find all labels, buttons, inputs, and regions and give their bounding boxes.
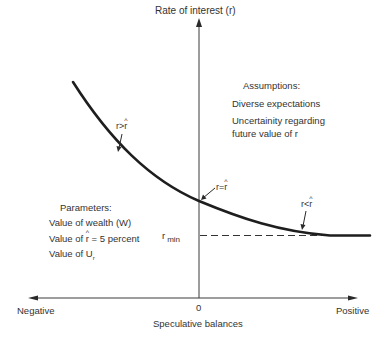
r-hat-var: r (124, 122, 127, 131)
r-var: r (162, 230, 165, 241)
parameter-rhat: Value of r = 5 percent (49, 234, 139, 244)
parameters-title: Parameters: (60, 203, 112, 213)
x-negative-label: Negative (17, 306, 55, 316)
y-axis-arrow-icon (196, 18, 202, 27)
text: = 5 percent (89, 233, 139, 244)
r-hat-var: r (224, 183, 227, 192)
pointer-r-greater-arrow-icon (117, 146, 122, 152)
parameter-wealth: Value of wealth (W) (49, 218, 131, 228)
diagram-canvas (0, 0, 388, 342)
x-positive-label: Positive (336, 306, 369, 316)
speculative-demand-curve (73, 82, 370, 236)
text: Value of (49, 233, 86, 244)
x-axis-label: Speculative balances (153, 319, 243, 329)
pointer-r-equal (203, 188, 215, 198)
label-r-equal-rhat: r=r (216, 183, 227, 192)
label-r-greater-than-rhat: r>r (116, 122, 127, 131)
assumptions-title: Assumptions: (243, 81, 300, 91)
r-min-label: rmin (162, 231, 180, 241)
assumption-line-3: future value of r (232, 129, 298, 139)
r-hat-var: r (86, 234, 89, 244)
subscript: r (93, 255, 95, 261)
parameter-ur: Value of Ur (49, 249, 95, 261)
label-r-less-than-rhat: r<r (301, 200, 312, 209)
x-axis-left-arrow-icon (28, 296, 38, 301)
text: Value of U (49, 248, 93, 259)
x-origin-label: 0 (196, 303, 201, 313)
assumption-line-2: Uncertainity regarding (232, 116, 325, 126)
r-hat-var: r (309, 200, 312, 209)
subscript: min (167, 235, 180, 244)
assumption-line-1: Diverse expectations (232, 99, 320, 109)
pointer-r-less (303, 211, 306, 226)
y-axis-label: Rate of interest (r) (155, 6, 236, 16)
pointer-r-less-arrow-icon (301, 224, 306, 230)
x-axis-right-arrow-icon (348, 296, 358, 301)
